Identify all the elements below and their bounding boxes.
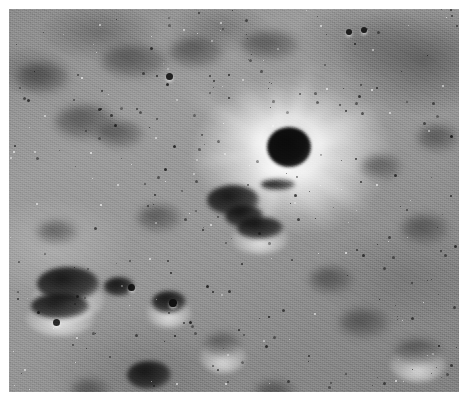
- secondary-crater: [417, 125, 459, 151]
- regolith-bright-speck: [345, 252, 347, 254]
- micro-crater-pit: [438, 345, 440, 347]
- micro-crater-pit: [84, 297, 86, 299]
- micro-crater-pit: [217, 216, 219, 218]
- micro-crater-pit: [101, 90, 103, 92]
- micro-crater-pit: [330, 382, 332, 384]
- regolith-bright-speck: [428, 130, 430, 132]
- micro-crater-pit: [388, 236, 391, 239]
- micro-crater-pit: [290, 203, 291, 204]
- micro-crater-pit: [150, 47, 153, 50]
- regolith-bright-speck: [263, 60, 264, 61]
- micro-crater-pit: [195, 210, 197, 212]
- micro-crater-pit: [347, 275, 348, 276]
- regolith-bright-speck: [432, 353, 434, 355]
- micro-crater-pit: [120, 107, 123, 110]
- notable-pit: [346, 29, 352, 35]
- micro-crater-pit: [412, 369, 413, 370]
- regolith-bright-speck: [442, 85, 444, 87]
- micro-crater-pit: [19, 87, 21, 89]
- regolith-bright-speck: [29, 127, 30, 128]
- regolith-bright-speck: [306, 10, 307, 11]
- micro-crater-pit: [76, 295, 79, 298]
- secondary-crater: [309, 267, 353, 293]
- micro-crater-pit: [98, 137, 101, 140]
- regolith-bright-speck: [337, 188, 338, 189]
- micro-crater-pit: [109, 356, 111, 358]
- micro-crater-pit: [294, 194, 297, 197]
- micro-crater-pit: [411, 317, 414, 320]
- regolith-bright-speck: [388, 241, 389, 242]
- regolith-bright-speck: [242, 79, 244, 81]
- micro-crater-pit: [43, 32, 44, 33]
- micro-crater-pit: [432, 102, 435, 105]
- regolith-bright-speck: [407, 237, 408, 238]
- micro-crater-pit: [204, 144, 205, 145]
- micro-crater-pit: [73, 99, 75, 101]
- micro-crater-pit: [18, 261, 20, 263]
- micro-crater-pit: [265, 345, 268, 348]
- micro-crater-pit: [356, 249, 358, 251]
- regolith-bright-speck: [27, 298, 28, 299]
- micro-crater-pit: [376, 87, 378, 89]
- micro-crater-pit: [343, 88, 344, 89]
- micro-crater-pit: [339, 104, 341, 106]
- micro-crater-pit: [291, 259, 293, 261]
- regolith-bright-speck: [155, 222, 157, 224]
- micro-crater-pit: [286, 111, 289, 114]
- regolith-bright-speck: [36, 203, 38, 205]
- regolith-bright-speck: [131, 164, 132, 165]
- main-crater-shadow-bowl: [267, 127, 311, 167]
- micro-crater-pit: [450, 135, 453, 138]
- micro-crater-pit: [268, 242, 271, 245]
- micro-crater-pit: [142, 72, 145, 75]
- micro-crater-pit: [116, 263, 117, 264]
- regolith-bright-speck: [376, 184, 378, 186]
- micro-crater-pit: [270, 107, 271, 108]
- micro-crater-pit: [110, 114, 113, 117]
- micro-crater-pit: [168, 312, 170, 314]
- micro-crater-pit: [440, 250, 442, 252]
- lunar-surface-photograph: [9, 9, 459, 392]
- micro-crater-pit: [249, 59, 252, 62]
- regolith-bright-speck: [81, 77, 83, 79]
- micro-crater-pit: [209, 75, 211, 77]
- micro-crater-pit: [181, 190, 183, 192]
- micro-crater-pit: [139, 111, 142, 114]
- regolith-bright-speck: [402, 320, 403, 321]
- micro-crater-pit: [317, 16, 318, 17]
- micro-crater-pit: [189, 321, 192, 324]
- secondary-crater: [31, 293, 89, 319]
- micro-crater-pit: [27, 99, 30, 102]
- secondary-crater: [127, 361, 171, 389]
- micro-crater-pit: [308, 355, 310, 357]
- micro-crater-pit: [282, 309, 285, 312]
- regolith-bright-speck: [193, 173, 195, 175]
- regolith-bright-speck: [356, 210, 357, 211]
- micro-crater-pit: [260, 70, 263, 73]
- micro-crater-pit: [324, 64, 326, 66]
- regolith-bright-speck: [155, 137, 157, 139]
- regolith-bright-speck: [314, 313, 316, 315]
- regolith-bright-speck: [395, 380, 397, 382]
- secondary-crater: [241, 31, 299, 59]
- regolith-bright-speck: [151, 381, 152, 382]
- micro-crater-pit: [271, 83, 272, 84]
- notable-pit: [169, 299, 177, 307]
- micro-crater-pit: [156, 75, 158, 77]
- micro-crater-pit: [354, 43, 356, 45]
- micro-crater-pit: [268, 88, 269, 89]
- micro-crater-pit: [144, 183, 146, 185]
- micro-crater-pit: [136, 108, 138, 110]
- micro-crater-pit: [156, 118, 158, 120]
- micro-crater-pit: [427, 55, 428, 56]
- micro-crater-pit: [168, 24, 171, 27]
- micro-crater-pit: [157, 176, 160, 179]
- notable-pit: [166, 73, 173, 80]
- micro-crater-pit: [431, 373, 432, 374]
- regolith-bright-speck: [167, 68, 169, 70]
- secondary-crater: [395, 339, 441, 365]
- micro-crater-pit: [222, 28, 224, 30]
- micro-crater-pit: [241, 361, 244, 364]
- micro-crater-pit: [153, 385, 155, 387]
- regolith-bright-speck: [149, 258, 151, 260]
